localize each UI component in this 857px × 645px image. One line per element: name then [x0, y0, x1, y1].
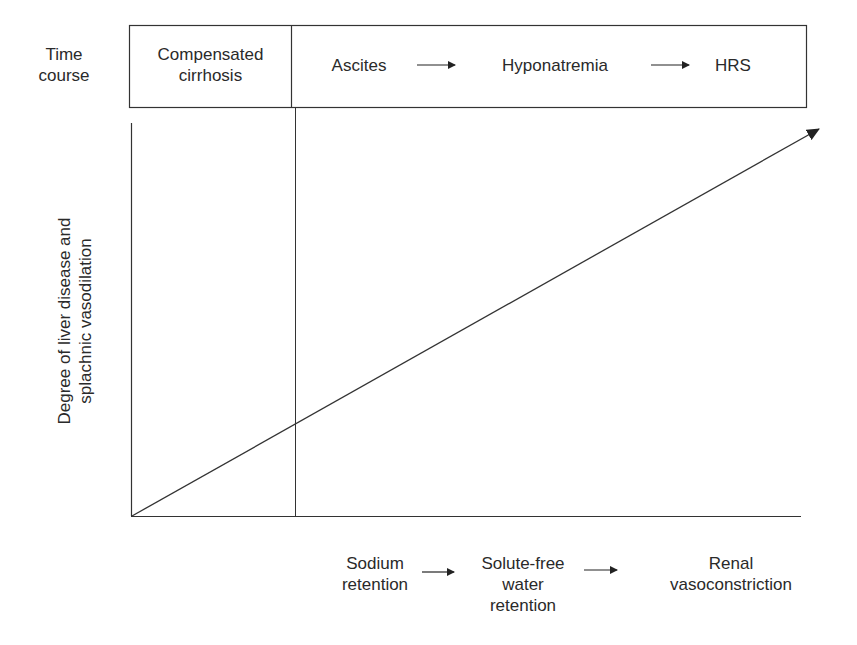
- y-axis-label: Degree of liver disease and splachnic va…: [54, 176, 96, 466]
- stage-hrs: HRS: [705, 55, 761, 76]
- sodium-retention-line1: Sodium: [320, 553, 430, 574]
- renal-vasoconstriction-line1: Renal: [636, 553, 826, 574]
- sodium-retention-line2: retention: [320, 574, 430, 595]
- renal-vasoconstriction-label: Renal vasoconstriction: [636, 553, 826, 595]
- stage-compensated-cirrhosis: Compensated cirrhosis: [130, 44, 291, 86]
- sodium-retention-label: Sodium retention: [320, 553, 430, 595]
- diagram-lines: [0, 0, 857, 645]
- y-axis-label-line2: splachnic vasodilation: [75, 176, 96, 466]
- solute-free-water-retention-label: Solute-free water retention: [468, 553, 578, 616]
- stage-hyponatremia: Hyponatremia: [475, 55, 635, 76]
- y-axis-label-line1: Degree of liver disease and: [54, 176, 75, 466]
- renal-vasoconstriction-line2: vasoconstriction: [636, 574, 826, 595]
- time-course-label-line1: Time: [20, 44, 108, 65]
- stage-ascites: Ascites: [316, 55, 402, 76]
- time-course-label: Time course: [20, 44, 108, 86]
- solute-free-water-line3: retention: [468, 595, 578, 616]
- time-course-label-line2: course: [20, 65, 108, 86]
- stage1-line2: cirrhosis: [130, 65, 291, 86]
- disease-progression-arrow: [132, 129, 819, 516]
- solute-free-water-line1: Solute-free: [468, 553, 578, 574]
- solute-free-water-line2: water: [468, 574, 578, 595]
- stage1-line1: Compensated: [130, 44, 291, 65]
